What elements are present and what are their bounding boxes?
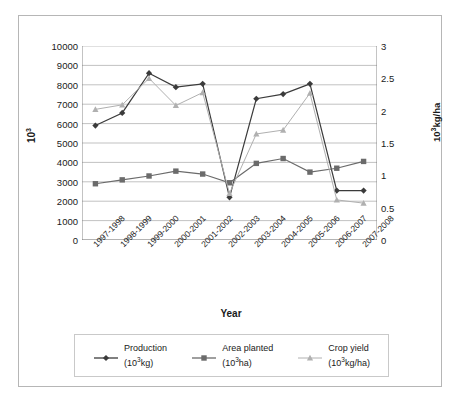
y-axis-left-labels: 0100020003000400050006000700080009000100… <box>19 46 78 240</box>
chart-container: 0100020003000400050006000700080009000100… <box>18 15 442 387</box>
data-point-square <box>146 173 151 178</box>
y-axis-right-tick-label: 3 <box>381 41 386 52</box>
data-point-diamond <box>103 354 109 360</box>
legend-label: Crop yield(103kg/ha) <box>328 342 370 369</box>
legend-marker-square-icon <box>191 350 217 362</box>
y-axis-left-tick-label: 8000 <box>57 79 78 90</box>
y-axis-left-tick-label: 10000 <box>52 41 78 52</box>
x-axis-labels: 1997-19981998-19991999-20002000-20012001… <box>82 242 377 304</box>
chart-plot-svg <box>82 46 377 240</box>
y-axis-left-tick-label: 5000 <box>57 138 78 149</box>
y-axis-left-title-text: 103 <box>26 128 37 143</box>
legend-item-crop-yield[interactable]: Crop yield(103kg/ha) <box>297 342 370 369</box>
legend-item-area-planted[interactable]: Area planted(103ha) <box>191 342 273 369</box>
y-axis-right-tick-label: 0.5 <box>381 202 394 213</box>
data-point-diamond <box>200 81 206 87</box>
y-axis-right-labels: 00.511.522.53 <box>381 46 411 240</box>
data-point-square <box>173 168 178 173</box>
y-axis-right-tick-label: 2.5 <box>381 73 394 84</box>
y-axis-left-tick-label: 4000 <box>57 157 78 168</box>
legend-label: Production(103kg) <box>124 342 167 369</box>
legend-marker-triangle-icon <box>297 350 323 362</box>
legend-item-production[interactable]: Production(103kg) <box>93 342 167 369</box>
legend-label: Area planted(103ha) <box>222 342 273 369</box>
data-point-square <box>201 355 206 360</box>
data-point-square <box>254 161 259 166</box>
data-point-diamond <box>253 96 259 102</box>
y-axis-left-tick-label: 7000 <box>57 99 78 110</box>
data-point-square <box>307 169 312 174</box>
y-axis-right-tick-label: 0 <box>381 235 386 246</box>
data-point-square <box>93 181 98 186</box>
y-axis-left-tick-label: 3000 <box>57 176 78 187</box>
data-point-square <box>120 177 125 182</box>
y-axis-left-tick-label: 2000 <box>57 196 78 207</box>
x-axis-title: Year <box>19 308 443 319</box>
plot-area <box>82 46 377 240</box>
data-point-triangle <box>334 197 340 203</box>
data-point-diamond <box>280 91 286 97</box>
y-axis-right-title-text: 103kg/ha <box>431 103 442 142</box>
data-point-diamond <box>360 187 366 193</box>
y-axis-left-title: 103 <box>25 128 37 143</box>
data-point-diamond <box>307 81 313 87</box>
data-point-square <box>280 156 285 161</box>
y-axis-right-tick-label: 2 <box>381 105 386 116</box>
data-point-square <box>200 171 205 176</box>
y-axis-left-tick-label: 1000 <box>57 215 78 226</box>
y-axis-right-tick-label: 1.5 <box>381 138 394 149</box>
legend-marker-diamond-icon <box>93 350 119 362</box>
series-crop-yield <box>92 75 366 206</box>
y-axis-left-tick-label: 6000 <box>57 118 78 129</box>
y-axis-left-tick-label: 9000 <box>57 60 78 71</box>
chart-legend: Production(103kg)Area planted(103ha)Crop… <box>74 334 389 377</box>
data-point-square <box>361 159 366 164</box>
y-axis-left-tick-label: 0 <box>73 235 78 246</box>
y-axis-right-tick-label: 1 <box>381 170 386 181</box>
data-point-square <box>334 166 339 171</box>
y-axis-right-title: 103kg/ha <box>430 103 442 142</box>
